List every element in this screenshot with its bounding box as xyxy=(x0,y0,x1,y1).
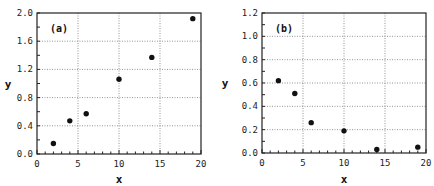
data-point xyxy=(374,147,379,152)
y-tick-label: 0.4 xyxy=(17,121,33,131)
x-tick-label: 5 xyxy=(75,159,80,169)
y-tick-label: 0.0 xyxy=(17,149,33,159)
y-tick-label: 0.0 xyxy=(242,148,258,158)
y-tick-label: 2.0 xyxy=(17,8,33,18)
data-point xyxy=(309,120,314,125)
data-point xyxy=(292,91,297,96)
scatter-plot-a: 051015200.00.40.81.21.62.0xy(a) xyxy=(0,0,217,186)
y-tick-labels: 0.00.20.40.60.81.01.2 xyxy=(242,8,258,158)
y-tick-labels: 0.00.40.81.21.62.0 xyxy=(17,8,33,159)
data-point xyxy=(51,141,56,146)
y-axis-label: y xyxy=(222,77,229,90)
y-tick-label: 0.2 xyxy=(242,125,258,135)
x-axis-label: x xyxy=(116,173,123,186)
data-point xyxy=(67,118,72,123)
data-point xyxy=(116,77,121,82)
x-tick-label: 15 xyxy=(155,159,166,169)
x-tick-label: 5 xyxy=(300,158,305,168)
x-tick-label: 20 xyxy=(196,159,207,169)
panel-label: (b) xyxy=(275,23,293,34)
x-tick-label: 15 xyxy=(380,158,391,168)
y-tick-label: 1.6 xyxy=(17,36,33,46)
data-point xyxy=(84,111,89,116)
data-points xyxy=(51,16,196,146)
y-tick-label: 1.2 xyxy=(242,8,258,18)
x-tick-label: 20 xyxy=(421,158,432,168)
y-tick-label: 0.8 xyxy=(242,55,258,65)
x-tick-labels: 05101520 xyxy=(259,158,431,168)
x-tick-label: 10 xyxy=(339,158,350,168)
y-tick-label: 1.2 xyxy=(17,64,33,74)
chart-panel-b: 051015200.00.20.40.60.81.01.2xy(b) xyxy=(217,0,434,186)
panel-label: (a) xyxy=(50,23,68,34)
x-tick-labels: 05101520 xyxy=(34,159,206,169)
x-tick-label: 10 xyxy=(114,159,125,169)
x-axis-label: x xyxy=(341,173,348,186)
data-point xyxy=(190,16,195,21)
chart-panel-a: 051015200.00.40.81.21.62.0xy(a) xyxy=(0,0,217,186)
data-point xyxy=(276,78,281,83)
scatter-plot-b: 051015200.00.20.40.60.81.01.2xy(b) xyxy=(217,0,434,186)
data-point xyxy=(341,128,346,133)
data-point xyxy=(149,55,154,60)
y-tick-label: 0.4 xyxy=(242,101,258,111)
y-tick-label: 1.0 xyxy=(242,31,258,41)
y-tick-label: 0.8 xyxy=(17,93,33,103)
data-points xyxy=(276,78,421,152)
data-point xyxy=(415,144,420,149)
x-tick-label: 0 xyxy=(259,158,264,168)
x-tick-label: 0 xyxy=(34,159,39,169)
y-axis-label: y xyxy=(5,78,12,91)
y-tick-label: 0.6 xyxy=(242,78,258,88)
grid-lines xyxy=(37,13,201,154)
